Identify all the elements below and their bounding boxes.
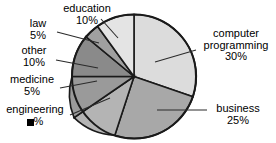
redacted-value-box — [27, 119, 34, 126]
label-business-value: 25% — [210, 115, 266, 127]
label-engineering-value-wrap: % — [0, 116, 70, 128]
label-medicine-name: medicine — [10, 73, 54, 85]
pie-chart-figure: education 10% law 5% other 10% medicine … — [0, 0, 276, 143]
label-education-name: education — [63, 2, 111, 14]
label-computer-programming-value: 30% — [196, 51, 276, 63]
label-law-value: 5% — [18, 30, 58, 42]
label-engineering: engineering % — [0, 104, 70, 127]
label-law: law 5% — [18, 18, 58, 41]
label-other-name: other — [21, 44, 46, 56]
label-education-value: 10% — [56, 15, 118, 27]
label-education: education 10% — [56, 3, 118, 26]
label-business: business 25% — [210, 103, 266, 126]
label-other-value: 10% — [12, 57, 56, 69]
label-engineering-value: % — [34, 115, 44, 127]
label-medicine-value: 5% — [4, 86, 60, 98]
label-business-name: business — [216, 102, 259, 114]
label-engineering-name: engineering — [6, 103, 64, 115]
label-other: other 10% — [12, 45, 56, 68]
label-computer-programming: computer programming 30% — [196, 28, 276, 63]
label-medicine: medicine 5% — [4, 74, 60, 97]
label-computer-programming-name-line1: computer — [213, 27, 259, 39]
label-law-name: law — [30, 17, 47, 29]
